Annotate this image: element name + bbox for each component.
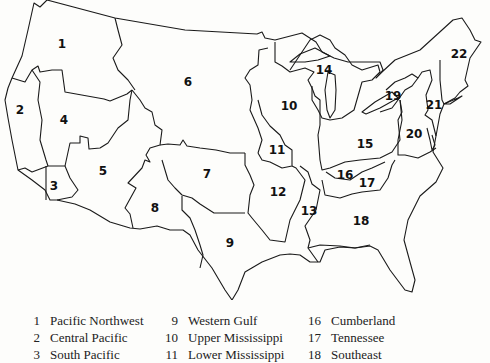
legend-item: 11Lower Mississippi [162,346,284,363]
boundary-2-4 [32,70,48,166]
region-label-13: 13 [301,205,318,217]
region-label-9: 9 [226,237,234,249]
boundary-1-south [12,66,132,101]
legend-region-name: Central Pacific [50,330,128,345]
legend-region-name: Western Gulf [188,313,257,328]
legend-item: 18Southeast [305,346,395,363]
legend-region-name: Upper Mississippi [188,330,283,345]
region-label-12: 12 [270,186,287,198]
region-label-21: 21 [426,99,443,111]
boundary-4-5 [65,90,132,166]
region-label-6: 6 [184,76,192,88]
legend-region-name: Pacific Northwest [50,313,144,328]
legend-item: 10Upper Mississippi [162,329,284,346]
region-label-1: 1 [58,38,66,50]
legend-item: 3South Pacific [30,346,144,363]
lake-michigan [325,72,336,118]
legend-column-3: 16Cumberland 17Tennessee 18Southeast [305,312,395,363]
boundary-10-west [245,48,268,153]
boundary-6-7 [160,140,245,153]
region-label-20: 20 [406,128,423,140]
boundary-1-6 [113,18,135,90]
legend-item: 9Western Gulf [162,312,284,329]
region-label-22: 22 [451,48,468,60]
region-label-14: 14 [316,64,333,76]
legend-number: 1 [30,312,40,329]
region-label-2: 2 [16,104,24,116]
legend-column-2: 9Western Gulf 10Upper Mississippi 11Lowe… [162,312,284,363]
legend-column-1: 1Pacific Northwest 2Central Pacific 3Sou… [30,312,144,363]
region-label-10: 10 [281,100,298,112]
long-island [444,96,462,104]
legend-number: 16 [305,312,321,329]
us-outline [5,0,481,300]
region-label-4: 4 [60,114,68,126]
legend-region-name: South Pacific [50,347,120,362]
legend-item: 1Pacific Northwest [30,312,144,329]
region-label-16: 16 [337,169,354,181]
legend-number: 18 [305,346,321,363]
region-label-19: 19 [385,90,402,102]
boundary-15 [318,100,402,170]
legend-number: 11 [162,346,178,363]
region-label-17: 17 [359,177,376,189]
legend-item: 2Central Pacific [30,329,144,346]
us-water-regions-map [0,0,490,300]
lake-superior [290,48,330,62]
legend-item: 17Tennessee [305,329,395,346]
region-label-15: 15 [357,138,374,150]
region-label-7: 7 [203,168,211,180]
region-label-18: 18 [353,215,370,227]
region-label-11: 11 [269,144,286,156]
legend-region-name: Southeast [331,347,382,362]
region-label-5: 5 [99,165,107,177]
legend-region-name: Tennessee [331,330,384,345]
legend-number: 3 [30,346,40,363]
region-label-8: 8 [151,202,159,214]
legend-number: 9 [162,312,178,329]
legend-item: 16Cumberland [305,312,395,329]
legend-region-name: Lower Mississippi [188,347,284,362]
boundary-16 [326,162,385,180]
region-label-3: 3 [50,180,58,192]
legend-number: 2 [30,329,40,346]
legend-region-name: Cumberland [331,313,395,328]
chesapeake-bay [427,128,435,150]
legend-number: 17 [305,329,321,346]
legend-number: 10 [162,329,178,346]
